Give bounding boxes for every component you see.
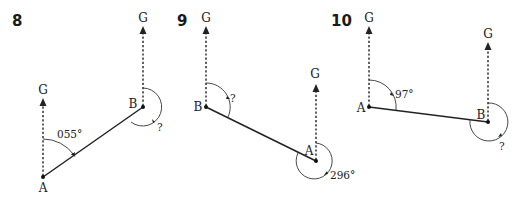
- point-b-label: B: [477, 108, 486, 122]
- north-arrow-icon: [40, 98, 47, 106]
- north-line-b: G: [138, 11, 148, 106]
- north-line-b: G: [201, 11, 211, 106]
- angle-label-a: 296°: [330, 169, 355, 181]
- question-number: 10: [331, 12, 352, 30]
- point-b: [486, 120, 490, 124]
- north-arrow-icon: [140, 26, 147, 34]
- north-line-a: G: [38, 83, 48, 176]
- angle-arc-b: [206, 83, 230, 117]
- point-b-label: B: [129, 97, 138, 111]
- arc-arrow-icon: [324, 171, 328, 175]
- north-label: G: [483, 27, 493, 41]
- angle-label-b: ?: [230, 92, 236, 104]
- point-a: [314, 159, 318, 163]
- point-a-label: A: [356, 101, 366, 115]
- angle-label-a: 97°: [395, 88, 414, 100]
- north-label: G: [138, 11, 148, 25]
- diagram-9: 9 G G B A ? 296°: [177, 11, 355, 181]
- north-label: G: [201, 11, 211, 25]
- north-label: G: [364, 11, 374, 25]
- bearings-diagrams: 8 G G A B 055° ? 9: [0, 0, 522, 198]
- north-label: G: [310, 67, 320, 81]
- angle-arc-a: [43, 139, 74, 155]
- point-a: [367, 105, 371, 109]
- diagram-8: 8 G G A B 055° ?: [12, 11, 163, 195]
- point-a-label: A: [304, 144, 314, 158]
- angle-label-b: ?: [157, 121, 163, 133]
- segment-ab: [369, 107, 488, 122]
- question-number: 8: [12, 12, 22, 30]
- north-arrow-icon: [366, 26, 373, 34]
- point-b-label: B: [194, 100, 203, 114]
- point-b: [204, 105, 208, 109]
- point-b: [141, 105, 145, 109]
- point-a: [41, 175, 45, 179]
- angle-label-b: ?: [499, 140, 505, 152]
- point-a-label: A: [38, 181, 48, 195]
- north-arrow-icon: [485, 42, 492, 50]
- diagram-10: 10 G G A B 97° ?: [331, 11, 508, 152]
- north-line-b: G: [483, 27, 493, 121]
- north-label: G: [38, 83, 48, 97]
- segment-ab: [206, 107, 316, 161]
- north-line-a: G: [364, 11, 374, 106]
- north-arrow-icon: [203, 26, 210, 34]
- angle-label-a: 055°: [57, 128, 82, 140]
- north-arrow-icon: [313, 84, 320, 92]
- question-number: 9: [177, 12, 187, 30]
